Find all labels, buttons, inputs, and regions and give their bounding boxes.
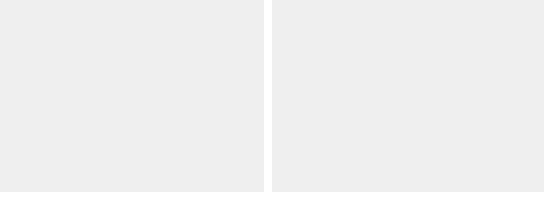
chart-panel-right — [272, 0, 544, 192]
panel-divider — [264, 0, 272, 192]
chart-panel-left — [0, 0, 264, 192]
line-chart-fragile-states — [272, 0, 544, 192]
line-chart-conflict — [0, 0, 264, 192]
figure-container — [0, 0, 544, 204]
